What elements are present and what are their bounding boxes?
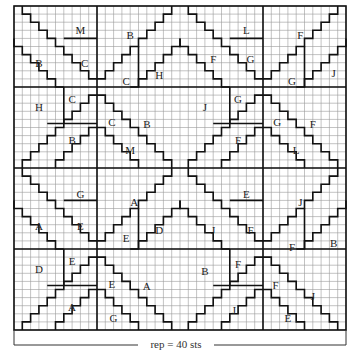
block-label: H [155, 69, 163, 81]
block-label: G [273, 116, 281, 128]
block-label: A [68, 301, 76, 313]
block-label: E [285, 312, 292, 324]
block-label: F [210, 53, 216, 65]
knitting-chart: MBBCHCCHCBBMLFFGJGJGGFFLGAAEDEEDEAAGEJJF… [0, 0, 348, 352]
block-label: J [211, 224, 216, 236]
block-label: F [310, 118, 316, 130]
block-label: G [234, 93, 242, 105]
block-label: B [330, 237, 337, 249]
block-label: F [297, 29, 303, 41]
block-label: D [35, 263, 43, 275]
block-label: L [293, 144, 300, 156]
block-label: J [331, 67, 336, 79]
block-label: F [247, 224, 253, 236]
block-label: B [143, 118, 150, 130]
block-label: F [235, 134, 241, 146]
block-label: F [235, 258, 241, 270]
block-label: J [311, 290, 316, 302]
block-label: A [35, 220, 43, 232]
repeat-bracket: rep = 40 sts [14, 330, 346, 350]
block-label: M [76, 24, 86, 36]
block-label: G [288, 75, 296, 87]
block-label: F [289, 241, 295, 253]
block-label: E [109, 278, 116, 290]
block-label: H [35, 101, 43, 113]
block-label: B [127, 29, 134, 41]
block-label: G [110, 312, 118, 324]
repeat-label: rep = 40 sts [150, 338, 201, 350]
block-label: E [123, 232, 130, 244]
block-label: C [81, 57, 88, 69]
block-label: C [68, 93, 75, 105]
block-label: J [203, 101, 208, 113]
block-label: A [143, 280, 151, 292]
block-label: M [125, 144, 135, 156]
block-label: C [122, 75, 129, 87]
block-label: D [155, 224, 163, 236]
block-label: L [243, 24, 250, 36]
block-label: B [35, 57, 42, 69]
block-label: F [272, 279, 278, 291]
block-label: B [201, 265, 208, 277]
block-label: E [69, 255, 76, 267]
block-label: J [298, 196, 303, 208]
block-label: C [108, 116, 115, 128]
block-label: G [247, 53, 255, 65]
block-label: E [77, 220, 84, 232]
block-label: B [68, 134, 75, 146]
block-label: E [243, 188, 250, 200]
block-label: G [76, 188, 84, 200]
block-label: A [130, 196, 138, 208]
block-label: J [232, 304, 237, 316]
